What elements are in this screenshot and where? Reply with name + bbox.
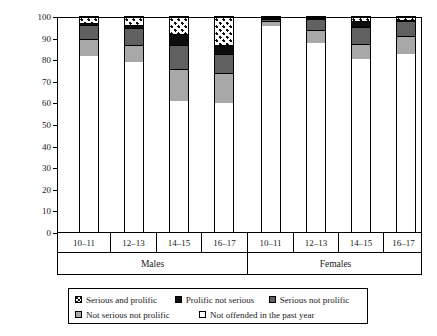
y-axis-tick-label: 60 bbox=[11, 99, 51, 108]
x-axis-group-band: MalesFemales bbox=[57, 253, 422, 275]
legend-item: Serious and prolific bbox=[75, 295, 175, 305]
y-axis-tick-label: 50 bbox=[11, 121, 51, 130]
x-axis-category-cell: 14–15 bbox=[339, 233, 384, 253]
bar-segment bbox=[80, 39, 98, 56]
x-axis-category-cell: 10–11 bbox=[248, 233, 294, 253]
y-axis-tick-label: 0 bbox=[11, 229, 51, 238]
bar bbox=[214, 16, 234, 232]
x-axis-category-cell: 14–15 bbox=[157, 233, 202, 253]
legend: Serious and prolificProlific not serious… bbox=[68, 288, 368, 324]
legend-item-label: Serious not prolific bbox=[280, 295, 350, 305]
y-axis-tick-label: 30 bbox=[11, 164, 51, 173]
y-axis-tick-label: 100 bbox=[11, 13, 51, 22]
y-axis-tick-label: 10 bbox=[11, 207, 51, 216]
plot-area bbox=[57, 17, 422, 233]
bar bbox=[261, 16, 281, 232]
bar-segment bbox=[170, 17, 188, 34]
bar-segment bbox=[307, 30, 325, 43]
bar-segment bbox=[215, 17, 233, 45]
bar-segment bbox=[307, 43, 325, 232]
x-axis-group-label: Females bbox=[248, 253, 423, 275]
legend-item: Not serious not prolific bbox=[75, 310, 199, 320]
bar-segment bbox=[215, 73, 233, 103]
x-axis-category-cell: 12–13 bbox=[111, 233, 157, 253]
y-axis-tick-label: 90 bbox=[11, 34, 51, 43]
bars-layer bbox=[58, 18, 421, 232]
legend-swatch-medgray bbox=[75, 311, 82, 318]
bar bbox=[351, 16, 371, 232]
bar-segment bbox=[125, 17, 143, 25]
legend-swatch-darkgray bbox=[269, 296, 276, 303]
bar-segment bbox=[352, 27, 370, 44]
bar-segment bbox=[215, 103, 233, 232]
x-axis-category-cell: 16–17 bbox=[202, 233, 248, 253]
bar-segment bbox=[125, 45, 143, 62]
y-axis-tick-label: 70 bbox=[11, 77, 51, 86]
bar-segment bbox=[80, 56, 98, 232]
bar-segment bbox=[125, 62, 143, 232]
legend-item: Prolific not serious bbox=[175, 295, 269, 305]
bar-segment bbox=[352, 59, 370, 232]
legend-row-2: Not serious not prolificNot offended in … bbox=[75, 307, 361, 322]
bar-segment bbox=[170, 69, 188, 101]
legend-item-label: Prolific not serious bbox=[186, 295, 255, 305]
bar bbox=[306, 16, 326, 232]
legend-item-label: Not offended in the past year bbox=[210, 310, 315, 320]
y-axis-tick-label: 20 bbox=[11, 185, 51, 194]
bar bbox=[79, 16, 99, 232]
bar-segment bbox=[170, 34, 188, 45]
bar bbox=[124, 16, 144, 232]
bar-segment bbox=[352, 44, 370, 59]
y-axis-tick-label: 40 bbox=[11, 142, 51, 151]
bar bbox=[169, 16, 189, 232]
legend-swatch-black bbox=[175, 296, 182, 303]
bar bbox=[396, 16, 416, 232]
bar-segment bbox=[215, 45, 233, 54]
bar-segment bbox=[262, 26, 280, 232]
x-axis-category-cell: 16–17 bbox=[384, 233, 423, 253]
legend-item: Not offended in the past year bbox=[199, 310, 359, 320]
x-axis-category-cell: 10–11 bbox=[58, 233, 111, 253]
legend-row-1: Serious and prolificProlific not serious… bbox=[75, 292, 361, 307]
bar-segment bbox=[215, 54, 233, 73]
bar-segment bbox=[170, 45, 188, 69]
stacked-bar-chart: Percentage 0102030405060708090100 10–111… bbox=[0, 0, 437, 336]
legend-swatch-white bbox=[199, 311, 206, 318]
x-axis-category-cell: 12–13 bbox=[294, 233, 339, 253]
y-axis-tick-label: 80 bbox=[11, 56, 51, 65]
bar-segment bbox=[307, 19, 325, 30]
bar-segment bbox=[397, 36, 415, 53]
legend-item-label: Serious and prolific bbox=[86, 295, 157, 305]
legend-item: Serious not prolific bbox=[269, 295, 361, 305]
bar-segment bbox=[397, 21, 415, 36]
x-axis-category-band: 10–1112–1314–1516–1710–1112–1314–1516–17 bbox=[57, 233, 422, 253]
bar-segment bbox=[125, 28, 143, 45]
x-axis-group-label: Males bbox=[58, 253, 248, 275]
bar-segment bbox=[170, 101, 188, 232]
legend-item-label: Not serious not prolific bbox=[86, 310, 170, 320]
legend-swatch-checker bbox=[75, 296, 82, 303]
bar-segment bbox=[397, 54, 415, 232]
bar-segment bbox=[80, 25, 98, 39]
